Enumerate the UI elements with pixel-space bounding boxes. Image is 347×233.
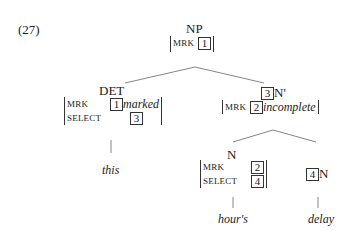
word-delay: delay	[308, 212, 334, 227]
example-number: (27)	[18, 23, 40, 36]
n1-tag-2: 2	[251, 161, 264, 174]
nbar-tag-2: 2	[250, 101, 263, 114]
nbar-value-incomplete: incomplete	[263, 100, 316, 115]
word-this: this	[102, 163, 119, 178]
word-hours: hour's	[218, 212, 248, 227]
det-value-marked: marked	[123, 97, 159, 112]
det-attr-select: SELECT	[67, 113, 130, 123]
det-attr-mrk: MRK	[67, 99, 110, 109]
n1-avm: MRK 2 SELECT 4	[200, 160, 267, 188]
nbar-attr-mrk: MRK	[225, 102, 250, 112]
nbar-avm: MRK 2 incomplete	[222, 100, 319, 114]
root-category: NP	[186, 22, 203, 35]
n1-tag-4: 4	[251, 175, 264, 188]
nbar-category: N'	[274, 85, 286, 100]
det-avm: MRK 1 marked SELECT 3	[64, 97, 162, 125]
n2-node: 4N	[306, 167, 328, 181]
det-tag-3: 3	[130, 112, 143, 125]
root-tag-1: 1	[198, 37, 211, 50]
det-category: DET	[99, 84, 124, 97]
root-avm: MRK 1	[170, 36, 214, 52]
tree-edges	[0, 0, 347, 233]
nbar-tag-3: 3	[261, 87, 274, 100]
det-tag-1: 1	[110, 98, 123, 111]
n1-attr-select: SELECT	[203, 176, 251, 186]
n2-tag-4: 4	[306, 168, 319, 181]
nbar-node: 3N'	[261, 86, 286, 100]
n2-category: N	[319, 166, 328, 181]
n1-attr-mrk: MRK	[203, 162, 251, 172]
root-attr-mrk: MRK	[173, 38, 198, 48]
